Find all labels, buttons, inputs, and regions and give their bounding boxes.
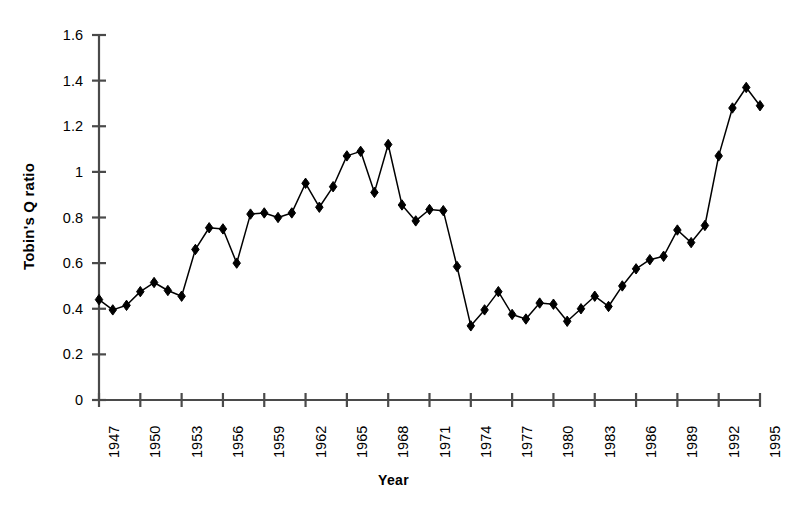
x-tick-label: 1995	[767, 426, 783, 458]
data-point-marker	[95, 294, 102, 304]
data-point-marker	[440, 205, 447, 215]
data-point-marker	[261, 208, 268, 218]
x-tick-label: 1980	[560, 426, 576, 458]
x-tick-label: 1956	[230, 426, 246, 458]
data-point-marker	[357, 146, 364, 156]
tobins-q-chart-figure: Tobin's Q ratio Year 00.20.40.60.811.21.…	[0, 0, 787, 513]
y-tick-label: 1.2	[0, 118, 83, 134]
data-point-marker	[453, 261, 460, 271]
x-tick-label: 1968	[395, 426, 411, 458]
y-tick-label: 0.8	[0, 210, 83, 226]
data-point-marker	[591, 291, 598, 301]
data-point-marker	[247, 209, 254, 219]
data-point-marker	[219, 224, 226, 234]
data-point-marker	[288, 208, 295, 218]
x-tick-label: 1962	[313, 426, 329, 458]
y-tick-label: 0.6	[0, 255, 83, 271]
x-tick-label: 1983	[602, 426, 618, 458]
data-point-marker	[164, 285, 171, 295]
data-point-marker	[384, 139, 391, 149]
x-tick-label: 1992	[726, 426, 742, 458]
x-tick-label: 1989	[684, 426, 700, 458]
x-tick-label: 1974	[478, 426, 494, 458]
data-point-marker	[426, 204, 433, 214]
x-tick-label: 1965	[354, 426, 370, 458]
axes-group	[92, 35, 760, 407]
y-tick-label: 1.4	[0, 73, 83, 89]
data-point-marker	[343, 151, 350, 161]
data-point-marker	[274, 212, 281, 222]
x-axis-title: Year	[0, 472, 787, 488]
x-tick-label: 1959	[271, 426, 287, 458]
y-tick-label: 0	[0, 392, 83, 408]
data-series-line	[95, 82, 763, 331]
data-point-marker	[371, 187, 378, 197]
y-tick-label: 1	[0, 164, 83, 180]
x-tick-label: 1953	[189, 426, 205, 458]
data-point-marker	[233, 258, 240, 268]
data-point-marker	[715, 151, 722, 161]
x-tick-label: 1950	[147, 426, 163, 458]
data-point-marker	[150, 277, 157, 287]
data-point-marker	[178, 291, 185, 301]
x-tick-label: 1977	[519, 426, 535, 458]
x-tick-label: 1971	[437, 426, 453, 458]
data-point-marker	[646, 255, 653, 265]
x-tick-label: 1947	[106, 426, 122, 458]
y-tick-label: 1.6	[0, 27, 83, 43]
y-tick-label: 0.2	[0, 346, 83, 362]
data-point-marker	[109, 305, 116, 315]
x-tick-label: 1986	[643, 426, 659, 458]
data-point-marker	[577, 304, 584, 314]
y-tick-label: 0.4	[0, 301, 83, 317]
